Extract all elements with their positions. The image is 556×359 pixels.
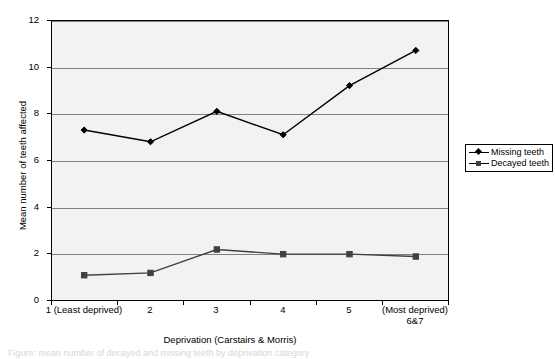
y-tick-label: 4 bbox=[34, 202, 39, 212]
gridline-6 bbox=[52, 161, 448, 162]
x-tick-label-line: (Most deprived) bbox=[382, 304, 448, 315]
gridline-2 bbox=[52, 254, 448, 255]
y-tick-label: 8 bbox=[34, 108, 39, 118]
legend-marker-diamond-icon bbox=[468, 147, 490, 158]
legend-label: Decayed teeth bbox=[490, 158, 549, 169]
x-tick-label-3: 3 bbox=[213, 304, 218, 315]
x-tick-label-line: 2 bbox=[147, 304, 152, 315]
y-tick-label: 10 bbox=[28, 62, 39, 72]
chart-legend: Missing teeth Decayed teeth bbox=[465, 144, 553, 172]
y-tick-label: 6 bbox=[34, 155, 39, 165]
x-tick-label-2: 2 bbox=[147, 304, 152, 315]
x-tick-label-line: 5 bbox=[346, 304, 351, 315]
x-tick-label-line: 1 (Least deprived) bbox=[46, 304, 123, 315]
gridline-4 bbox=[52, 208, 448, 209]
x-tick-label-line: 4 bbox=[280, 304, 285, 315]
x-tick-label-6: (Most deprived) 6&7 bbox=[382, 304, 448, 326]
x-tick-label-5: 5 bbox=[346, 304, 351, 315]
x-axis-labels: 1 (Least deprived) 2 3 4 5 (Most deprive… bbox=[0, 304, 556, 334]
x-tick-label-1: 1 (Least deprived) bbox=[46, 304, 123, 315]
gridline-10 bbox=[52, 68, 448, 69]
legend-entry-decayed-teeth[interactable]: Decayed teeth bbox=[468, 158, 549, 169]
x-tick-label-line: 6&7 bbox=[382, 315, 448, 326]
gridline-8 bbox=[52, 114, 448, 115]
y-axis-title: Mean number of teeth affected bbox=[17, 66, 28, 266]
plot-area bbox=[51, 20, 449, 301]
x-tick-label-4: 4 bbox=[280, 304, 285, 315]
x-tick-label-line: 3 bbox=[213, 304, 218, 315]
figure-caption: Figure: mean number of decayed and missi… bbox=[8, 348, 548, 359]
x-axis-title: Deprivation (Carstairs & Morris) bbox=[0, 334, 460, 345]
y-tick-label: 12 bbox=[28, 15, 39, 25]
gridline-12 bbox=[52, 21, 448, 22]
legend-marker-square-icon bbox=[468, 158, 490, 169]
legend-label: Missing teeth bbox=[490, 147, 544, 158]
legend-entry-missing-teeth[interactable]: Missing teeth bbox=[468, 147, 549, 158]
y-tick-label: 2 bbox=[34, 248, 39, 258]
